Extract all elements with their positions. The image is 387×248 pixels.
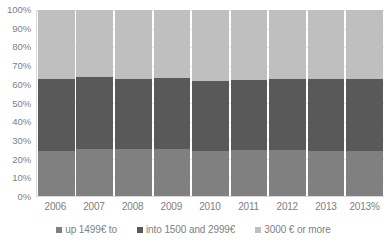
plot-area (36, 10, 384, 197)
x-axis-tick-label: 2009 (153, 199, 190, 215)
bar-segment[interactable] (346, 79, 383, 152)
y-axis-tick-label: 30% (12, 136, 31, 146)
legend-item[interactable]: 3000 € or more (255, 224, 330, 236)
bar-segment[interactable] (38, 79, 75, 152)
bar-segment[interactable] (308, 79, 345, 152)
bar-segment[interactable] (115, 79, 152, 149)
bar-segment[interactable] (76, 149, 113, 196)
bar-segment[interactable] (154, 10, 191, 78)
bar-group[interactable] (76, 10, 113, 196)
y-axis: 0%10%20%30%40%50%60%70%80%90%100% (0, 10, 34, 197)
x-axis-tick-label: 2010 (192, 199, 229, 215)
x-axis-tick-label: 2013 (307, 199, 344, 215)
y-axis-tick-label: 70% (12, 61, 31, 71)
legend-item[interactable]: into 1500 and 2999€ (137, 224, 235, 236)
bar-segment[interactable] (192, 151, 229, 196)
x-axis-tick-label: 2006 (37, 199, 74, 215)
legend-item[interactable]: up 1499€ to (56, 224, 117, 236)
x-axis-tick-label: 2012 (269, 199, 306, 215)
y-axis-tick-label: 100% (7, 5, 31, 15)
bar-segment[interactable] (269, 10, 306, 79)
square-swatch-icon (137, 227, 143, 233)
bar-segment[interactable] (154, 78, 191, 149)
x-axis: 200620072008200920102011201220132013% (36, 199, 384, 215)
bar-segment[interactable] (346, 151, 383, 196)
y-axis-tick-label: 40% (12, 117, 31, 127)
bar-segment[interactable] (231, 150, 268, 197)
y-axis-tick-label: 60% (12, 80, 31, 90)
x-axis-tick-label: 2013% (346, 199, 383, 215)
bar-segment[interactable] (38, 151, 75, 196)
bar-group[interactable] (115, 10, 152, 196)
chart-legend: up 1499€ tointo 1500 and 2999€3000 € or … (0, 220, 387, 240)
bar-segment[interactable] (231, 80, 268, 150)
legend-item-label: up 1499€ to (65, 224, 117, 236)
y-axis-tick-label: 0% (17, 192, 31, 202)
bar-segment[interactable] (308, 151, 345, 196)
y-axis-tick-label: 10% (12, 173, 31, 183)
square-swatch-icon (56, 227, 62, 233)
bar-group[interactable] (231, 10, 268, 196)
x-axis-tick-label: 2011 (230, 199, 267, 215)
y-axis-tick-label: 20% (12, 155, 31, 165)
bar-group[interactable] (154, 10, 191, 196)
bar-group[interactable] (346, 10, 383, 196)
bar-segment[interactable] (76, 77, 113, 149)
bar-segment[interactable] (346, 10, 383, 79)
legend-item-label: 3000 € or more (264, 224, 330, 236)
y-axis-tick-label: 90% (12, 24, 31, 34)
bar-segment[interactable] (269, 150, 306, 197)
bar-segment[interactable] (192, 10, 229, 81)
bar-segment[interactable] (269, 79, 306, 150)
x-axis-tick-label: 2008 (114, 199, 151, 215)
bar-segment[interactable] (38, 10, 75, 79)
bar-segment[interactable] (308, 10, 345, 79)
bar-segment[interactable] (231, 10, 268, 80)
y-axis-tick-label: 80% (12, 42, 31, 52)
square-swatch-icon (255, 227, 261, 233)
bar-segment[interactable] (76, 10, 113, 77)
bars-layer (37, 10, 384, 196)
bar-group[interactable] (192, 10, 229, 196)
bar-segment[interactable] (192, 81, 229, 152)
y-axis-tick-label: 50% (12, 99, 31, 109)
bar-group[interactable] (308, 10, 345, 196)
bar-segment[interactable] (115, 10, 152, 79)
bar-group[interactable] (269, 10, 306, 196)
bar-segment[interactable] (115, 149, 152, 196)
stacked-bar-chart: 0%10%20%30%40%50%60%70%80%90%100% 200620… (0, 0, 387, 248)
plot-wrapper: 0%10%20%30%40%50%60%70%80%90%100% 200620… (0, 0, 387, 214)
bar-group[interactable] (38, 10, 75, 196)
legend-item-label: into 1500 and 2999€ (146, 224, 235, 236)
x-axis-tick-label: 2007 (76, 199, 113, 215)
bar-segment[interactable] (154, 149, 191, 196)
